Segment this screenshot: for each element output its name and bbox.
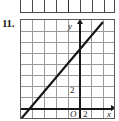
y-tick-label-2: 2: [70, 86, 75, 95]
strip-grid-line: [68, 0, 69, 12]
figure-root: 11. y x O 2 2: [0, 0, 119, 121]
strip-grid-line: [104, 0, 105, 12]
x-tick-label-2: 2: [83, 110, 88, 119]
cut-off-grid-strip: [20, 0, 115, 13]
origin-label: O: [70, 110, 77, 119]
coordinate-graph: y x O 2 2: [20, 19, 115, 119]
x-axis-label: x: [107, 110, 111, 119]
strip-grid-line: [44, 0, 45, 12]
strip-grid-line: [32, 0, 33, 12]
strip-grid-line: [56, 0, 57, 12]
strip-grid-line: [92, 0, 93, 12]
line-series: [21, 20, 115, 119]
strip-grid-line: [80, 0, 81, 12]
problem-number: 11.: [2, 17, 14, 29]
y-axis-label: y: [68, 22, 72, 31]
